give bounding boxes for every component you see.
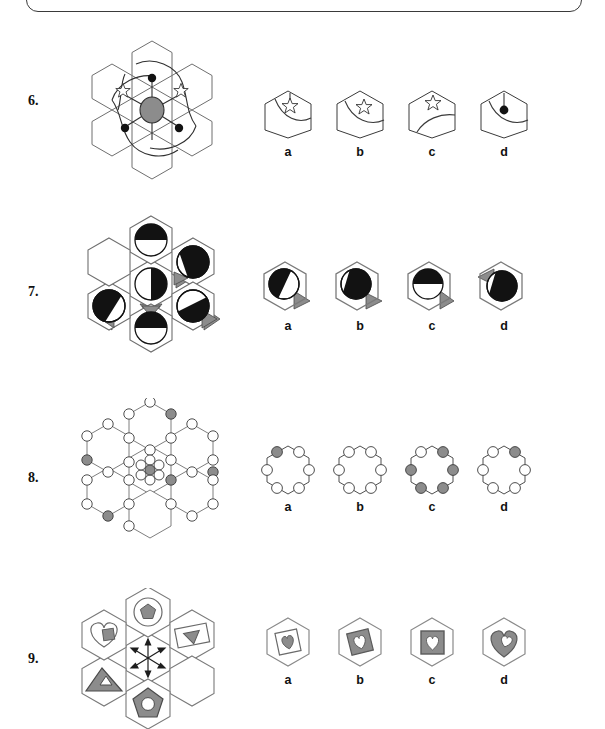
option-8-d-letter: d xyxy=(468,500,540,514)
question-7-number: 7. xyxy=(28,284,39,300)
star-icon xyxy=(282,98,298,113)
split-circle-sw xyxy=(93,290,125,322)
spoke-dot-sw xyxy=(121,124,129,132)
option-9-b[interactable]: b xyxy=(324,613,396,687)
hub-ellipse xyxy=(140,97,164,123)
option-6-a[interactable]: a xyxy=(252,85,324,159)
spoke-dot-se xyxy=(175,124,183,132)
option-7-d[interactable]: d xyxy=(468,257,540,333)
option-6-d[interactable]: d xyxy=(468,85,540,159)
vertex-gray xyxy=(406,465,417,476)
split-circle-s xyxy=(135,312,167,344)
option-9-d[interactable]: d xyxy=(468,613,540,687)
vertex-gray xyxy=(272,447,283,458)
option-9-a[interactable]: a xyxy=(252,613,324,687)
question-9-options: a b c d xyxy=(252,613,582,687)
question-6-number: 6. xyxy=(28,93,39,109)
vertex-gray xyxy=(510,447,521,458)
question-9-number: 9. xyxy=(28,651,39,667)
vertex-gray xyxy=(448,465,459,476)
question-6-options: a b c d xyxy=(252,85,582,159)
spoke-dot-n xyxy=(148,74,156,82)
option-8-b-letter: b xyxy=(324,500,396,514)
star-icon xyxy=(356,99,372,114)
split-circle-ne xyxy=(177,246,209,278)
question-8: 8. xyxy=(0,398,605,563)
question-7: 7. xyxy=(0,212,605,372)
option-6-b[interactable]: b xyxy=(324,85,396,159)
split-circle-n xyxy=(135,224,167,256)
option-9-c-letter: c xyxy=(396,673,468,687)
question-7-stem-figure xyxy=(70,212,235,362)
question-8-number: 8. xyxy=(28,470,39,486)
hex-cell-ne xyxy=(172,64,212,110)
page-frame-border xyxy=(26,0,582,12)
option-8-b[interactable]: b xyxy=(324,440,396,514)
option-7-b[interactable]: b xyxy=(324,257,396,333)
vertex-gray xyxy=(438,447,449,458)
vertex-gray xyxy=(416,483,427,494)
question-8-stem-figure xyxy=(68,398,243,548)
dot-icon xyxy=(500,106,509,115)
option-8-c[interactable]: c xyxy=(396,440,468,514)
option-7-b-letter: b xyxy=(324,319,396,333)
option-8-a-letter: a xyxy=(252,500,324,514)
question-6: 6. xyxy=(0,30,605,200)
option-6-b-letter: b xyxy=(324,145,396,159)
option-8-a[interactable]: a xyxy=(252,440,324,514)
question-8-options: a b c xyxy=(252,440,582,514)
option-9-c[interactable]: c xyxy=(396,613,468,687)
option-9-a-letter: a xyxy=(252,673,324,687)
option-9-d-letter: d xyxy=(468,673,540,687)
option-7-c-letter: c xyxy=(396,319,468,333)
option-8-d[interactable]: d xyxy=(468,440,540,514)
option-7-d-letter: d xyxy=(468,319,540,333)
question-9-stem-figure xyxy=(62,588,242,729)
split-circle-se xyxy=(177,290,209,322)
cell-circle-pentagon xyxy=(134,598,162,626)
hex-cell-nw xyxy=(88,238,130,286)
option-6-c-letter: c xyxy=(396,145,468,159)
option-9-b-letter: b xyxy=(324,673,396,687)
option-6-d-letter: d xyxy=(468,145,540,159)
question-9: 9. xyxy=(0,588,605,729)
option-7-c[interactable]: c xyxy=(396,257,468,333)
option-6-c[interactable]: c xyxy=(396,85,468,159)
question-7-options: a b c xyxy=(252,257,582,333)
option-8-c-letter: c xyxy=(396,500,468,514)
hex-cell-sw xyxy=(92,110,132,156)
question-6-stem-figure xyxy=(78,30,228,190)
option-7-a-letter: a xyxy=(252,319,324,333)
star-icon xyxy=(425,95,441,110)
option-6-a-letter: a xyxy=(252,145,324,159)
vertex-gray xyxy=(438,483,449,494)
hex-cell-nw xyxy=(92,64,132,110)
option-7-a[interactable]: a xyxy=(252,257,324,333)
split-circle-center xyxy=(135,268,167,300)
spoke-star-nw xyxy=(116,83,130,97)
